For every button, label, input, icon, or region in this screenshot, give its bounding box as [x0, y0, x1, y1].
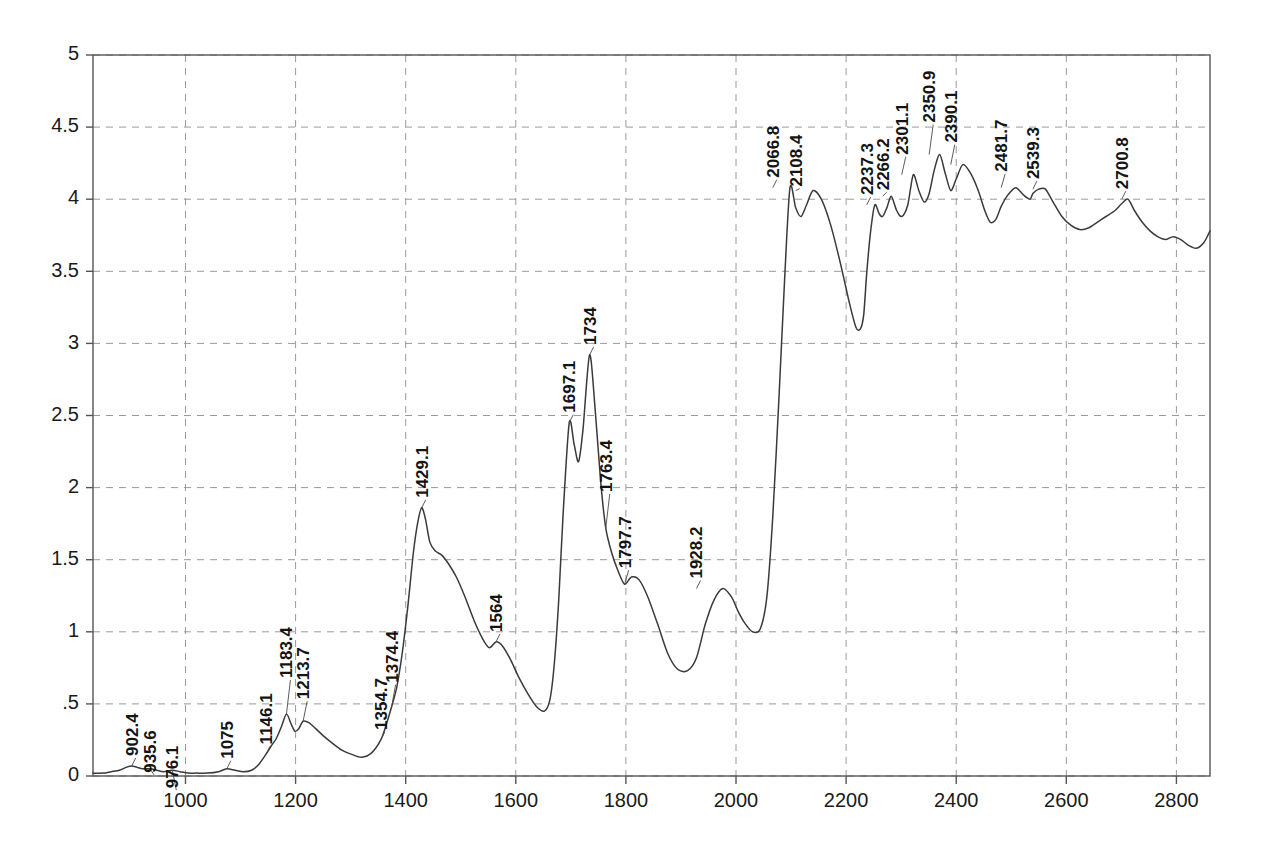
- peak-label: 935.6: [141, 730, 160, 773]
- x-tick-label: 1400: [383, 789, 428, 811]
- peak-label: 1213.7: [294, 647, 313, 699]
- y-tick-label: 5: [68, 42, 79, 64]
- peak-label: 1763.4: [597, 439, 616, 492]
- y-tick-label: 3: [68, 331, 79, 353]
- x-tick-label: 2400: [934, 789, 979, 811]
- peak-label: 2066.8: [764, 126, 783, 178]
- y-tick-label: 4.5: [51, 114, 79, 136]
- peak-label: 2266.2: [874, 138, 893, 190]
- y-tick-label: 3.5: [51, 259, 79, 281]
- x-tick-label: 1200: [273, 789, 318, 811]
- x-tick-label: 1000: [163, 789, 208, 811]
- y-tick-label: 2: [68, 475, 79, 497]
- peak-label: 2301.1: [893, 103, 912, 155]
- y-tick-label: 0: [68, 763, 79, 785]
- peak-label: 1734: [581, 307, 600, 345]
- chart-background: [0, 0, 1269, 841]
- ir-spectrum-chart: 0.511.522.533.544.55 1000120014001600180…: [0, 0, 1269, 841]
- peak-label: 1354.7: [372, 678, 391, 730]
- peak-label: 1697.1: [560, 361, 579, 413]
- x-tick-label: 2000: [714, 789, 759, 811]
- peak-label: 976.1: [163, 746, 182, 789]
- peak-label: 2390.1: [942, 91, 961, 143]
- peak-label: 902.4: [123, 713, 142, 756]
- y-tick-label: 1: [68, 619, 79, 641]
- spectrum-plot-area: 0.511.522.533.544.55 1000120014001600180…: [0, 0, 1269, 841]
- x-tick-label: 1600: [494, 789, 539, 811]
- x-tick-label: 2600: [1044, 789, 1089, 811]
- y-tick-label: 4: [68, 186, 79, 208]
- peak-label: 1429.1: [413, 446, 432, 498]
- y-tick-label: .5: [62, 691, 79, 713]
- x-tick-label: 2800: [1154, 789, 1199, 811]
- y-tick-label: 2.5: [51, 403, 79, 425]
- peak-label: 2481.7: [992, 120, 1011, 172]
- peak-label: 1374.4: [383, 630, 402, 683]
- peak-label: 1075: [218, 721, 237, 759]
- peak-label: 2539.3: [1024, 127, 1043, 179]
- peak-label: 1146.1: [257, 693, 276, 744]
- peak-label: 1928.2: [687, 527, 706, 579]
- peak-label: 2700.8: [1113, 137, 1132, 189]
- x-tick-label: 1800: [604, 789, 649, 811]
- y-tick-label: 1.5: [51, 547, 79, 569]
- peak-label: 2350.9: [920, 70, 939, 122]
- peak-label: 1564: [487, 594, 506, 632]
- peak-label: 2108.4: [787, 134, 806, 187]
- x-tick-label: 2200: [824, 789, 869, 811]
- peak-label: 1797.7: [616, 516, 635, 568]
